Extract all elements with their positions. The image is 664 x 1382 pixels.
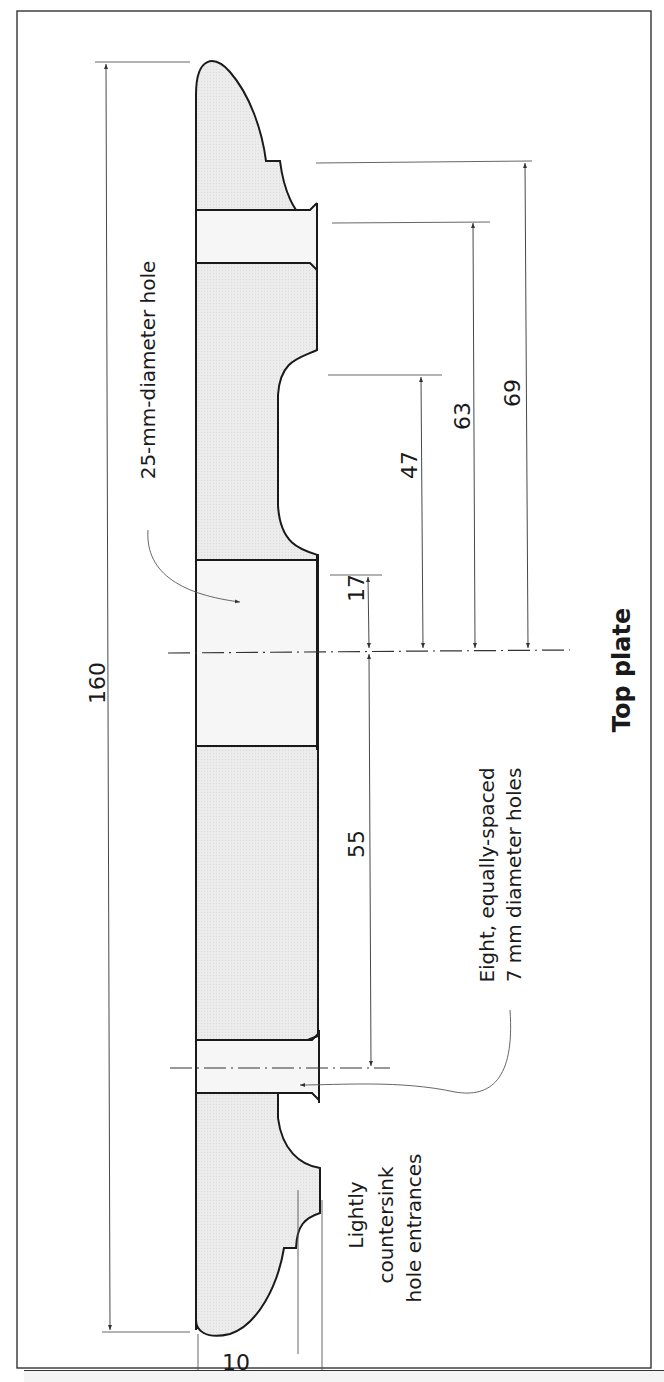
drawing-border bbox=[17, 11, 651, 1368]
dim-160-label: 160 bbox=[85, 662, 110, 704]
leader-small-holes bbox=[300, 1010, 511, 1093]
dim-47-line bbox=[421, 377, 423, 648]
large-hole-label: 25-mm-diameter hole bbox=[136, 261, 160, 480]
drawing-title: Top plate bbox=[608, 608, 636, 733]
dim-47-label: 47 bbox=[397, 451, 422, 479]
bottom-strip bbox=[24, 1370, 664, 1382]
dim-69-line bbox=[525, 163, 528, 648]
dim-63-line bbox=[473, 223, 475, 648]
countersink-label-line3: hole entrances bbox=[402, 1154, 426, 1303]
small-holes-label-line1: Eight, equally-spaced bbox=[475, 767, 499, 982]
dim-69-label: 69 bbox=[500, 379, 525, 407]
dim-55-label: 55 bbox=[344, 830, 369, 858]
countersink-label-line2: countersink bbox=[374, 1166, 398, 1284]
small-holes-label-line2: 7 mm diameter holes bbox=[502, 768, 526, 983]
dim-55-line bbox=[369, 654, 371, 1066]
dim-63-label: 63 bbox=[450, 402, 475, 430]
dim-17-top-label: 17 bbox=[344, 574, 369, 602]
countersink-label-line1: Lightly bbox=[344, 1181, 368, 1248]
small-hole-upper bbox=[197, 210, 316, 263]
